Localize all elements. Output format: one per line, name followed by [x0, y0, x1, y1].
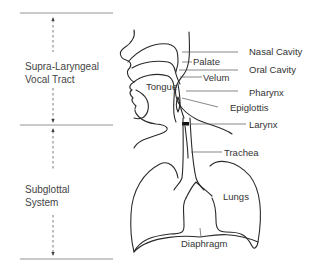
vocal-tract-diagram: Supra-Laryngeal Vocal Tract Subglottal S…	[0, 0, 313, 270]
label-trachea: Trachea	[224, 147, 259, 158]
label-velum: Velum	[203, 72, 229, 83]
label-oral-cavity: Oral Cavity	[249, 64, 296, 75]
label-lungs: Lungs	[223, 191, 249, 202]
label-palate: Palate	[193, 56, 220, 67]
label-epiglottis: Epiglottis	[230, 102, 269, 113]
trachea-outline	[174, 118, 204, 190]
epiglottis-leader	[182, 98, 218, 107]
label-larynx: Larynx	[249, 119, 278, 130]
label-pharynx: Pharynx	[249, 87, 284, 98]
subglottal-label-line1: Subglottal	[25, 184, 69, 195]
diaphragm-leader	[200, 228, 201, 237]
label-nasal-cavity: Nasal Cavity	[249, 46, 303, 57]
supra-laryngeal-label-line1: Supra-Laryngeal	[25, 61, 99, 72]
label-diaphragm: Diaphragm	[181, 238, 228, 249]
supra-laryngeal-label-line2: Vocal Tract	[25, 74, 75, 85]
subglottal-label-line2: System	[25, 197, 58, 208]
label-tongue: Tongue	[146, 81, 177, 92]
